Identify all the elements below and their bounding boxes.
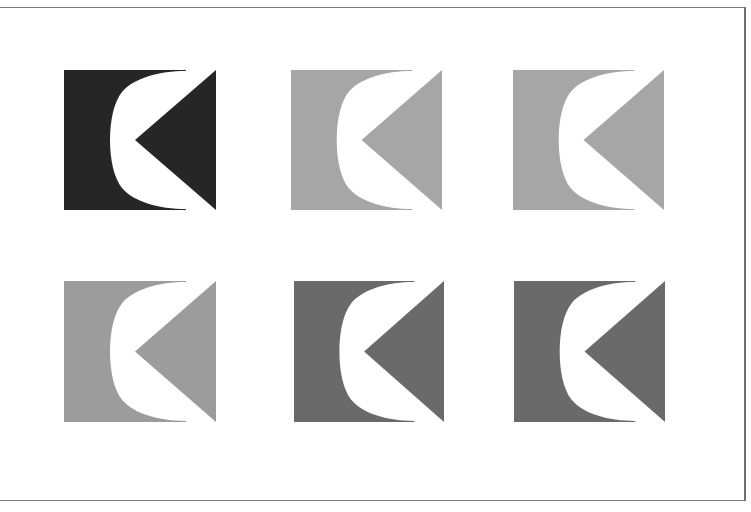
triangle-shape (135, 281, 216, 422)
logo-mid-gray (64, 281, 216, 422)
logo-dark-gray-1 (294, 281, 444, 422)
logo-light-gray-2 (513, 70, 664, 210)
triangle-shape (585, 281, 665, 422)
triangle-shape (364, 281, 444, 422)
triangle-shape (362, 70, 442, 210)
logo-light-gray-1 (291, 70, 442, 210)
triangle-shape (135, 70, 216, 210)
logo-black (64, 70, 216, 210)
triangle-shape (584, 70, 664, 210)
logo-dark-gray-2 (514, 281, 665, 422)
